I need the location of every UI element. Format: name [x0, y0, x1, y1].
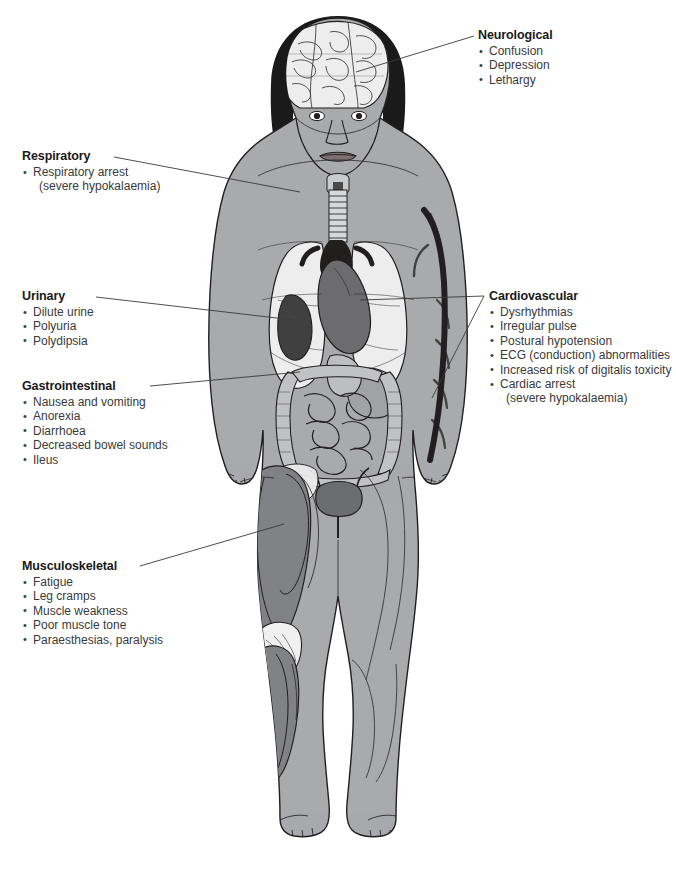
- callout-cardiovascular-list: Dysrhythmias Irregular pulse Postural hy…: [489, 305, 671, 406]
- list-item: Cardiac arrest: [489, 377, 671, 391]
- body-silhouette: [209, 18, 468, 837]
- callout-musculoskeletal: Musculoskeletal Fatigue Leg cramps Muscl…: [22, 559, 163, 647]
- list-item: (severe hypokalaemia): [22, 179, 160, 193]
- list-item: Dysrhythmias: [489, 305, 671, 319]
- list-item: Increased risk of digitalis toxicity: [489, 363, 671, 377]
- callout-neurological: Neurological Confusion Depression Lethar…: [478, 28, 553, 87]
- callout-urinary: Urinary Dilute urine Polyuria Polydipsia: [22, 289, 94, 348]
- list-item: Muscle weakness: [22, 604, 163, 618]
- callout-respiratory-list: Respiratory arrest (severe hypokalaemia): [22, 165, 160, 194]
- callout-urinary-list: Dilute urine Polyuria Polydipsia: [22, 305, 94, 348]
- callout-neurological-list: Confusion Depression Lethargy: [478, 44, 553, 87]
- eye-right: [356, 113, 362, 119]
- list-item: Anorexia: [22, 409, 168, 423]
- list-item: ECG (conduction) abnormalities: [489, 348, 671, 362]
- list-item: Nausea and vomiting: [22, 395, 168, 409]
- list-item: Depression: [478, 58, 553, 72]
- callout-gastrointestinal-title: Gastrointestinal: [22, 379, 168, 393]
- diagram-page: Neurological Confusion Depression Lethar…: [0, 0, 676, 871]
- callout-cardiovascular-title: Cardiovascular: [489, 289, 671, 303]
- list-item: Polydipsia: [22, 334, 94, 348]
- list-item: Ileus: [22, 453, 168, 467]
- list-item: Leg cramps: [22, 589, 163, 603]
- callout-gastrointestinal: Gastrointestinal Nausea and vomiting Ano…: [22, 379, 168, 467]
- list-item: Irregular pulse: [489, 319, 671, 333]
- callout-musculoskeletal-title: Musculoskeletal: [22, 559, 163, 573]
- list-item: Postural hypotension: [489, 334, 671, 348]
- list-item: Polyuria: [22, 319, 94, 333]
- list-item: (severe hypokalaemia): [489, 391, 671, 405]
- list-item: Decreased bowel sounds: [22, 438, 168, 452]
- list-item: Lethargy: [478, 73, 553, 87]
- callout-urinary-title: Urinary: [22, 289, 94, 303]
- eye-left: [314, 113, 320, 119]
- list-item: Poor muscle tone: [22, 618, 163, 632]
- callout-neurological-title: Neurological: [478, 28, 553, 42]
- trachea: [327, 174, 349, 243]
- callout-gastrointestinal-list: Nausea and vomiting Anorexia Diarrhoea D…: [22, 395, 168, 467]
- list-item: Confusion: [478, 44, 553, 58]
- list-item: Dilute urine: [22, 305, 94, 319]
- callout-respiratory-title: Respiratory: [22, 149, 160, 163]
- list-item: Respiratory arrest: [22, 165, 160, 179]
- list-item: Fatigue: [22, 575, 163, 589]
- list-item: Paraesthesias, paralysis: [22, 633, 163, 647]
- callout-cardiovascular: Cardiovascular Dysrhythmias Irregular pu…: [489, 289, 671, 406]
- list-item: Diarrhoea: [22, 424, 168, 438]
- callout-musculoskeletal-list: Fatigue Leg cramps Muscle weakness Poor …: [22, 575, 163, 647]
- callout-respiratory: Respiratory Respiratory arrest (severe h…: [22, 149, 160, 194]
